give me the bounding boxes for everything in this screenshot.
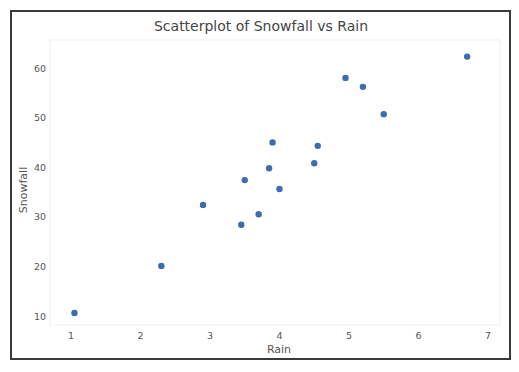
x-tick-label: 4 (276, 330, 282, 341)
chart-title: Scatterplot of Snowfall vs Rain (154, 18, 368, 34)
data-point (276, 186, 282, 192)
x-axis-ticks: 1234567 (68, 330, 491, 341)
y-axis-ticks: 102030405060 (34, 63, 46, 322)
y-axis-label: Snowfall (17, 167, 30, 213)
data-point (242, 177, 248, 183)
data-point (238, 222, 244, 228)
x-tick-label: 5 (346, 330, 352, 341)
x-tick-label: 3 (207, 330, 213, 341)
data-point (360, 84, 366, 90)
y-tick-label: 60 (34, 63, 46, 74)
data-point (464, 53, 470, 59)
y-tick-label: 30 (34, 211, 46, 222)
data-point (381, 111, 387, 117)
data-point (311, 160, 317, 166)
data-point (158, 263, 164, 269)
plot-area (50, 40, 500, 325)
x-axis-label: Rain (267, 343, 291, 356)
x-tick-label: 1 (68, 330, 74, 341)
data-point (315, 143, 321, 149)
y-tick-label: 40 (34, 162, 46, 173)
scatter-chart: Scatterplot of Snowfall vs Rain 10203040… (0, 0, 519, 372)
y-tick-label: 20 (34, 261, 46, 272)
x-tick-label: 6 (415, 330, 421, 341)
x-tick-label: 2 (137, 330, 143, 341)
y-tick-label: 10 (34, 311, 46, 322)
data-point (255, 211, 261, 217)
data-point (266, 165, 272, 171)
data-point (342, 75, 348, 81)
x-tick-label: 7 (485, 330, 491, 341)
data-point (71, 310, 77, 316)
data-point (269, 139, 275, 145)
data-point (200, 202, 206, 208)
y-tick-label: 50 (34, 112, 46, 123)
